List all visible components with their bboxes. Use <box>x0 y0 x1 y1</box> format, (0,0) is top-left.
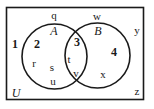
element-u: u <box>50 76 56 87</box>
universe-label: U <box>12 87 21 99</box>
element-s: s <box>50 62 54 73</box>
set-a-label: A <box>50 25 57 37</box>
element-t: t <box>67 54 70 65</box>
element-w: w <box>93 11 101 22</box>
region-3-number: 3 <box>74 36 80 48</box>
universe-rectangle <box>7 8 144 100</box>
region-1-number: 1 <box>12 38 18 50</box>
element-y: y <box>134 25 140 36</box>
region-4-number: 4 <box>111 46 117 58</box>
element-q: q <box>51 10 57 21</box>
set-b-label: B <box>94 25 101 37</box>
element-z: z <box>135 86 140 97</box>
element-x: x <box>100 69 106 80</box>
element-r: r <box>32 58 36 69</box>
element-v: v <box>73 68 79 79</box>
venn-diagram <box>0 0 154 109</box>
region-2-number: 2 <box>34 38 40 50</box>
